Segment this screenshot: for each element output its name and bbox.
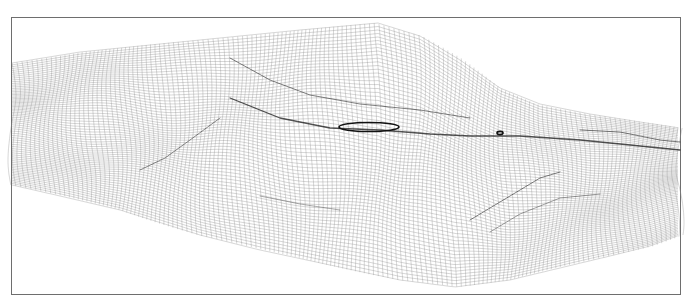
wireframe-mesh	[0, 0, 696, 308]
central-trough-crease	[230, 98, 680, 150]
mesh-grid	[8, 23, 684, 287]
wireframe-surface-figure	[0, 0, 696, 308]
